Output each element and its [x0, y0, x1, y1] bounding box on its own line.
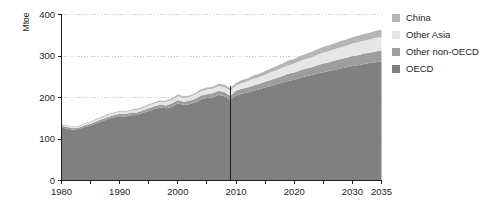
legend-label: Other Asia — [406, 29, 450, 40]
y-axis-title-text: Mtoe — [21, 12, 31, 31]
legend-label: Other non-OECD — [406, 46, 479, 57]
legend-swatch-icon — [392, 14, 400, 22]
area-series-group — [62, 30, 382, 181]
x-tick-label-2030: 2030 — [342, 186, 363, 197]
y-tick-label-400: 400 — [39, 9, 55, 20]
x-tick-label-2010: 2010 — [225, 186, 246, 197]
x-tick-label-1990: 1990 — [109, 186, 130, 197]
area-band-oecd — [62, 61, 382, 180]
legend-swatch-icon — [392, 48, 400, 56]
x-tick-labels: 1980199020002010202020302035 — [51, 186, 392, 197]
y-tick-labels: 0100200300400 — [39, 9, 55, 186]
x-tick-label-2035: 2035 — [371, 186, 392, 197]
x-tick-label-2020: 2020 — [284, 186, 305, 197]
y-tick-label-300: 300 — [39, 50, 55, 61]
legend-item-other-non-oecd[interactable]: Other non-OECD — [392, 43, 487, 60]
y-tick-marks — [58, 15, 62, 181]
x-tick-label-2000: 2000 — [167, 186, 188, 197]
legend-label: OECD — [406, 63, 433, 74]
legend-swatch-icon — [392, 65, 400, 73]
x-tick-label-1980: 1980 — [51, 186, 72, 197]
legend-item-china[interactable]: China — [392, 9, 487, 26]
stacked-area-chart-figure: 1980199020002010202020302035 01002003004… — [0, 0, 487, 209]
y-axis-title: Mtoe — [21, 12, 31, 31]
legend-item-other-asia[interactable]: Other Asia — [392, 26, 487, 43]
y-tick-label-100: 100 — [39, 133, 55, 144]
legend-item-oecd[interactable]: OECD — [392, 60, 487, 77]
y-tick-label-0: 0 — [50, 175, 55, 186]
chart-legend: ChinaOther AsiaOther non-OECDOECD — [392, 9, 487, 77]
x-tick-marks — [62, 181, 382, 185]
legend-label: China — [406, 12, 431, 23]
y-tick-label-200: 200 — [39, 92, 55, 103]
legend-swatch-icon — [392, 31, 400, 39]
